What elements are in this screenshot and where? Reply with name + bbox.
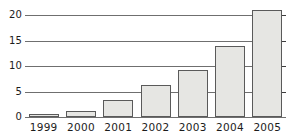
x-axis-tick-label: 2003 [174,121,211,133]
bar-chart: 20 15 10 5 0 1999 2000 2001 2002 2003 [0,0,291,140]
bar-series [25,5,286,117]
y-axis-tick-label: 15 [2,36,22,46]
x-axis-baseline [25,117,286,118]
bar-2000 [66,111,96,117]
y-axis-labels: 20 15 10 5 0 [0,0,22,140]
plot-area [25,5,286,117]
x-axis-tick-label: 2002 [137,121,174,133]
bar-2004 [215,46,245,117]
x-axis-tick-label: 1999 [25,121,62,133]
bar-1999 [29,114,59,117]
y-axis-tick-label: 10 [2,61,22,71]
bar-2003 [178,70,208,117]
x-axis-tick-label: 2001 [100,121,137,133]
x-axis-tick-label: 2000 [62,121,99,133]
x-axis-tick-label: 2005 [249,121,286,133]
x-axis-labels: 1999 2000 2001 2002 2003 2004 2005 [25,119,286,140]
y-axis-tick-label: 5 [2,87,22,97]
bar-2002 [141,85,171,117]
bar-2005 [252,10,282,117]
x-axis-tick-label: 2004 [211,121,248,133]
y-axis-tick-label: 0 [2,112,22,122]
y-axis-tick-label: 20 [2,10,22,20]
bar-2001 [103,100,133,117]
